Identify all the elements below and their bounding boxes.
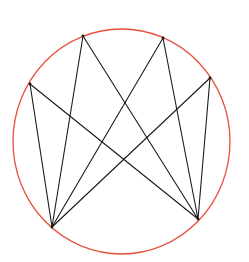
circle-chord-diagram	[0, 0, 249, 262]
vertex-B	[82, 35, 85, 38]
vertex-C	[162, 37, 165, 40]
vertex-F	[197, 218, 200, 221]
vertex-D	[209, 77, 212, 80]
vertex-A	[29, 83, 32, 86]
vertex-E	[51, 226, 54, 229]
